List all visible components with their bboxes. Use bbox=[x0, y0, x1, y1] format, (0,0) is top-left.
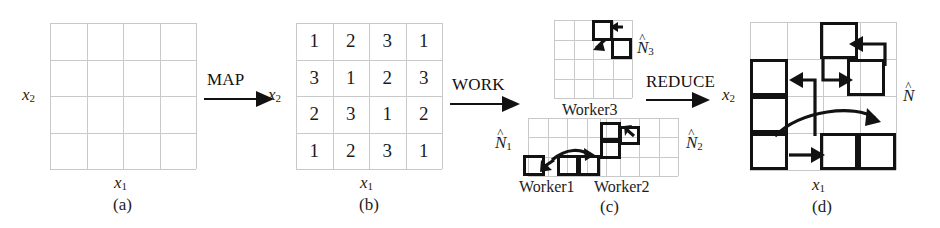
worker2-label: Worker2 bbox=[594, 178, 650, 196]
panel-b-cell: 2 bbox=[333, 23, 370, 60]
grid-line-vertical bbox=[659, 118, 660, 176]
grid-line-horizontal bbox=[528, 137, 606, 138]
work-operator-label: WORK bbox=[452, 75, 505, 95]
panel-b-cell: 3 bbox=[369, 23, 406, 60]
panel-c-caption: (c) bbox=[600, 198, 619, 215]
panel-a-caption: (a) bbox=[113, 196, 132, 213]
grid-line-vertical bbox=[196, 23, 197, 169]
grid-line-horizontal bbox=[528, 118, 606, 119]
panel-a-grid bbox=[50, 23, 196, 169]
panel-d-xlabel: x1 bbox=[812, 176, 825, 194]
panel-b-cell: 3 bbox=[406, 60, 443, 97]
panel-b-xlabel: x1 bbox=[360, 174, 373, 192]
reduce-arrow-icon bbox=[646, 89, 712, 111]
panel-b-cell: 2 bbox=[333, 133, 370, 170]
grid-line-horizontal bbox=[50, 133, 196, 134]
panel-b-cell: 2 bbox=[296, 96, 333, 133]
worker2-arrow-icon bbox=[616, 122, 648, 150]
grid-line-horizontal bbox=[50, 60, 196, 61]
panel-b-cell: 3 bbox=[296, 60, 333, 97]
panel-b-cell: 1 bbox=[333, 60, 370, 97]
panel-b-caption: (b) bbox=[359, 196, 379, 213]
grid-line-vertical bbox=[678, 118, 679, 176]
map-operator-label: MAP bbox=[207, 70, 244, 90]
worker1-estimate-label: N^1 bbox=[495, 133, 512, 153]
panel-a-ylabel: x2 bbox=[22, 86, 35, 104]
panel-b-cell: 2 bbox=[369, 60, 406, 97]
grid-line-horizontal bbox=[50, 96, 196, 97]
panel-b-cell: 3 bbox=[333, 96, 370, 133]
panel-b-cell: 1 bbox=[406, 23, 443, 60]
map-arrow-icon bbox=[204, 88, 276, 110]
panel-a-xlabel: x1 bbox=[114, 174, 127, 192]
panel-b-cell: 1 bbox=[296, 133, 333, 170]
worker3-label: Worker3 bbox=[562, 101, 618, 119]
panel-d-ylabel: x2 bbox=[722, 86, 735, 104]
panel-b-ylabel: x2 bbox=[268, 86, 281, 104]
panel-b-cell: 1 bbox=[406, 133, 443, 170]
figure-root: x2 x1 (a) MAP x2 1231312323121231 x1 (b)… bbox=[0, 0, 940, 228]
panel-b-cell: 1 bbox=[369, 96, 406, 133]
worker1-arrows-icon bbox=[540, 144, 602, 178]
panel-b-cell: 2 bbox=[406, 96, 443, 133]
work-arrow-icon bbox=[450, 93, 522, 115]
panel-d-arrows-icon bbox=[745, 18, 905, 178]
grid-line-horizontal bbox=[50, 23, 196, 24]
grid-line-horizontal bbox=[554, 79, 632, 80]
worker3-estimate-label: N^3 bbox=[637, 38, 654, 58]
worker3-arrows-icon bbox=[588, 18, 638, 64]
worker2-estimate-label: N^2 bbox=[686, 133, 703, 153]
grid-line-vertical bbox=[442, 23, 443, 169]
grid-line-horizontal bbox=[296, 169, 442, 170]
grid-line-horizontal bbox=[600, 176, 678, 177]
grid-line-horizontal bbox=[554, 98, 632, 99]
grid-line-horizontal bbox=[600, 118, 678, 119]
panel-b-cell: 3 bbox=[369, 133, 406, 170]
grid-line-horizontal bbox=[50, 169, 196, 170]
panel-d-caption: (d) bbox=[812, 198, 832, 215]
worker1-label: Worker1 bbox=[519, 178, 575, 196]
panel-d-estimate-label: N^ bbox=[903, 86, 914, 106]
panel-b-cell: 1 bbox=[296, 23, 333, 60]
